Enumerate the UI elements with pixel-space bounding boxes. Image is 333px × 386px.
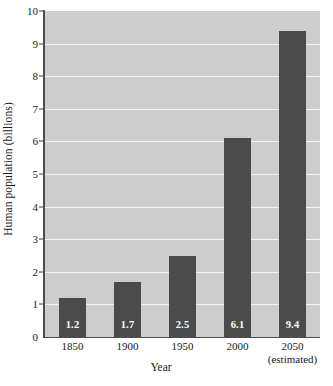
y-tick-label: 3 <box>33 233 39 245</box>
bar-value-label: 2.5 <box>169 320 196 331</box>
bar: 2.5 <box>169 256 196 338</box>
y-axis-title: Human population (billions) <box>0 0 16 337</box>
bar-value-label: 1.2 <box>59 320 86 331</box>
y-tick-label: 7 <box>33 103 39 115</box>
bar: 6.1 <box>224 138 251 337</box>
bar-value-label: 6.1 <box>224 320 251 331</box>
y-tick-label: 5 <box>33 168 39 180</box>
y-tick-label: 1 <box>33 298 39 310</box>
y-tick-label: 4 <box>33 201 39 213</box>
y-tick-label: 6 <box>33 135 39 147</box>
y-tick-label: 10 <box>27 5 38 17</box>
y-axis-title-text: Human population (billions) <box>2 102 14 236</box>
y-axis-tick-labels: 012345678910 <box>16 8 43 338</box>
y-tick-label: 8 <box>33 70 39 82</box>
x-tick-label: 1850 <box>62 340 84 353</box>
x-tick-label: 2000 <box>227 340 249 353</box>
x-tick-label: 1950 <box>172 340 194 353</box>
bar: 9.4 <box>279 31 306 337</box>
bar-value-label: 9.4 <box>279 320 306 331</box>
bar: 1.7 <box>114 282 141 337</box>
bar: 1.2 <box>59 298 86 337</box>
bar-value-label: 1.7 <box>114 320 141 331</box>
plot-area: 1.21.72.56.19.4 <box>45 11 320 337</box>
y-tick-label: 9 <box>33 38 39 50</box>
x-tick-label: 1900 <box>117 340 139 353</box>
population-bar-chart: Human population (billions) 012345678910… <box>0 0 333 386</box>
x-axis-title: Year <box>45 361 277 373</box>
y-tick-label: 0 <box>33 331 39 343</box>
y-tick-label: 2 <box>33 266 39 278</box>
x-axis-line <box>43 337 320 338</box>
